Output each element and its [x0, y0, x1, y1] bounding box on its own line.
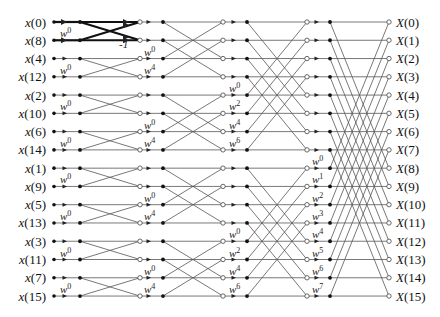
sum-node — [305, 38, 309, 42]
input-label: x(13) — [18, 215, 46, 230]
arrow-icon — [63, 166, 68, 170]
arrow-icon — [63, 57, 68, 61]
node — [245, 130, 249, 134]
arrow-icon — [232, 75, 237, 79]
twiddle-label: w7 — [312, 282, 323, 295]
arrow-icon — [147, 20, 152, 24]
sum-node — [221, 276, 225, 280]
twiddle-label: w0 — [60, 26, 71, 39]
node — [78, 93, 82, 97]
input-node — [52, 276, 56, 280]
twiddle-label: w0 — [60, 246, 71, 259]
sum-node — [138, 294, 142, 298]
arrow-icon — [232, 20, 237, 24]
sum-node — [305, 129, 309, 133]
output-label: X(4) — [395, 88, 419, 103]
node — [161, 276, 165, 280]
input-node — [52, 221, 56, 225]
output-node — [387, 93, 391, 97]
arrow-icon — [315, 148, 320, 152]
output-node — [387, 111, 391, 115]
sum-node — [305, 294, 309, 298]
sum-node — [138, 239, 142, 243]
node — [161, 166, 165, 170]
sum-node — [305, 20, 309, 24]
node — [328, 57, 332, 61]
twiddle-label: w0 — [144, 264, 155, 277]
node — [328, 130, 332, 134]
node — [245, 38, 249, 42]
sum-node — [221, 148, 225, 152]
arrow-icon — [315, 130, 320, 134]
input-node — [52, 75, 56, 79]
input-label: x(0) — [24, 15, 46, 30]
node — [161, 185, 165, 189]
output-node — [387, 184, 391, 188]
output-label: X(13) — [395, 252, 426, 267]
node — [161, 57, 165, 61]
node — [245, 111, 249, 115]
output-node — [387, 239, 391, 243]
node — [161, 111, 165, 115]
arrow-icon — [232, 166, 237, 170]
node — [78, 75, 82, 79]
sum-node — [138, 93, 142, 97]
output-node — [387, 257, 391, 261]
node — [328, 276, 332, 280]
output-label: X(0) — [395, 15, 419, 30]
node — [245, 148, 249, 152]
twiddle-label: w3 — [312, 209, 323, 222]
node — [245, 20, 249, 24]
input-label: x(3) — [24, 234, 46, 249]
node — [245, 203, 249, 207]
arrow-icon — [63, 276, 68, 280]
output-node — [387, 75, 391, 79]
node — [161, 130, 165, 134]
input-node — [52, 57, 56, 61]
fft-butterfly-diagram: w0w0w0w0w0w0w0w0w0w4w0w4w0w4w0w4w0w2w4w6… — [0, 0, 440, 317]
node — [328, 185, 332, 189]
arrow-icon — [315, 93, 320, 97]
sum-node — [305, 257, 309, 261]
node — [78, 294, 82, 298]
arrow-icon — [315, 57, 320, 61]
arrow-icon — [63, 93, 68, 97]
arrow-icon — [147, 38, 152, 42]
node — [161, 203, 165, 207]
output-label: X(14) — [395, 270, 426, 285]
graph-nodes — [52, 20, 391, 298]
output-node — [387, 20, 391, 24]
node — [245, 239, 249, 243]
sum-node — [138, 184, 142, 188]
node — [78, 185, 82, 189]
sum-node — [221, 257, 225, 261]
sum-node — [221, 56, 225, 60]
input-node — [52, 93, 56, 97]
node — [161, 258, 165, 262]
sum-node — [305, 111, 309, 115]
sum-node — [221, 93, 225, 97]
node — [245, 185, 249, 189]
sum-node — [138, 221, 142, 225]
twiddle-label: w1 — [312, 172, 323, 185]
output-node — [387, 148, 391, 152]
input-label: x(12) — [18, 69, 46, 84]
sum-node — [221, 221, 225, 225]
output-node — [387, 166, 391, 170]
twiddle-label: w4 — [229, 118, 240, 131]
arrow-icon — [147, 111, 152, 115]
twiddle-label: w4 — [229, 264, 240, 277]
arrow-icon — [232, 203, 237, 207]
arrow-icon — [147, 239, 152, 243]
twiddle-label: w2 — [312, 191, 323, 204]
sum-node — [305, 166, 309, 170]
node — [328, 203, 332, 207]
node — [328, 93, 332, 97]
sum-node — [138, 148, 142, 152]
sum-node — [138, 166, 142, 170]
minus-one-label: -1 — [119, 38, 128, 50]
twiddle-label: w2 — [229, 246, 240, 259]
input-node — [52, 258, 56, 262]
input-node — [52, 20, 56, 24]
node — [328, 20, 332, 24]
